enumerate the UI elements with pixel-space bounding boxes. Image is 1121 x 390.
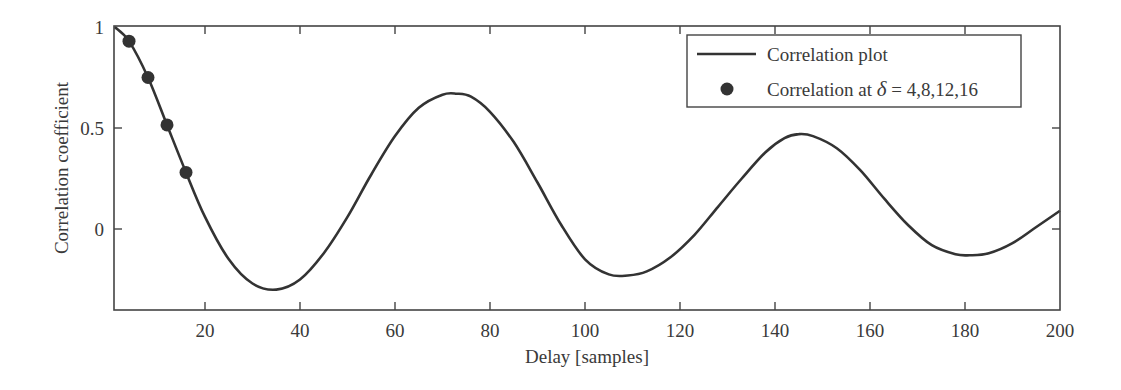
x-tick-label: 120 bbox=[666, 320, 695, 341]
correlation-markers bbox=[123, 35, 193, 179]
x-axis-label: Delay [samples] bbox=[525, 346, 649, 367]
correlation-chart: 2040608010012014016018020000.51 Delay [s… bbox=[0, 0, 1121, 390]
x-tick-label: 180 bbox=[951, 320, 980, 341]
legend-line-label: Correlation plot bbox=[767, 44, 889, 65]
x-tick-label: 40 bbox=[291, 320, 310, 341]
y-tick-label: 1 bbox=[95, 17, 105, 38]
x-tick-label: 200 bbox=[1046, 320, 1075, 341]
legend-marker-swatch bbox=[721, 83, 734, 96]
correlation-marker bbox=[180, 166, 193, 179]
x-tick-label: 100 bbox=[571, 320, 600, 341]
y-tick-label: 0 bbox=[95, 219, 105, 240]
y-axis-label: Correlation coefficient bbox=[51, 81, 72, 254]
legend-marker-label: Correlation at δ = 4,8,12,16 bbox=[767, 77, 978, 101]
x-tick-label: 160 bbox=[856, 320, 885, 341]
x-tick-label: 60 bbox=[386, 320, 405, 341]
correlation-marker bbox=[142, 71, 155, 84]
x-tick-label: 140 bbox=[761, 320, 790, 341]
legend: Correlation plot Correlation at δ = 4,8,… bbox=[687, 35, 1021, 107]
x-tick-label: 80 bbox=[481, 320, 500, 341]
correlation-marker bbox=[123, 35, 136, 48]
x-tick-label: 20 bbox=[196, 320, 215, 341]
correlation-marker bbox=[161, 118, 174, 131]
y-tick-label: 0.5 bbox=[80, 118, 104, 139]
